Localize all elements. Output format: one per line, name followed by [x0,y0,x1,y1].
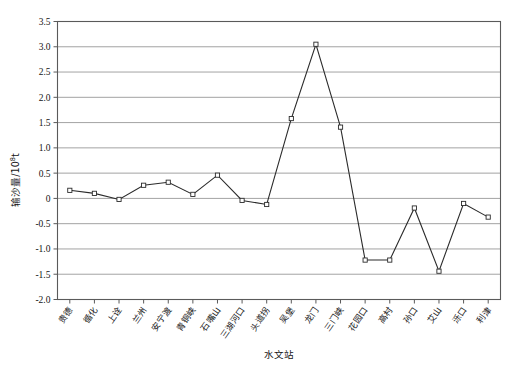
y-axis-tick-label: -1.5 [35,270,50,280]
x-axis-tick-label: 青铜峡 [174,304,198,332]
x-axis-tick-label: 花园口 [346,304,370,332]
x-axis-tick-label: 高村 [376,304,395,325]
data-point-marker [363,258,367,262]
y-axis-tick-label: 3.5 [39,17,51,27]
y-axis-tick-label: 1.0 [39,143,51,153]
data-point-marker [437,269,441,273]
x-axis-tick-label: 龙门 [302,304,321,325]
y-axis-tick-label: 1.5 [39,118,51,128]
data-point-marker [92,191,96,195]
x-axis-tick-label: 贵德 [56,304,75,325]
data-point-marker [265,202,269,206]
data-point-marker [338,125,342,129]
data-point-marker [486,215,490,219]
y-axis-tick-label: 2.0 [39,93,51,103]
x-axis-tick-label: 三湖河口 [218,304,248,340]
y-axis-tick-label: -1.0 [35,244,50,254]
y-axis-ticks [54,22,58,300]
data-point-marker [166,180,170,184]
x-axis-tick-label: 孙口 [400,304,419,325]
data-point-marker [215,173,219,177]
y-axis-tick-label: 2.5 [39,67,51,77]
x-axis-tick-label: 循化 [80,304,99,325]
x-axis-ticks [70,300,488,304]
x-axis-tick-labels: 贵德循化上诠兰州安宁渡青铜峡石嘴山三湖河口头道拐吴堡龙门三门峡花园口高村孙口艾山… [56,304,494,340]
y-axis-tick-label: 3.0 [39,42,51,52]
data-point-marker [142,183,146,187]
y-axis-title-text: 输沙量/108t [9,153,21,207]
data-point-marker [314,42,318,46]
data-point-marker [117,197,121,201]
plot-gridlines [58,22,501,275]
data-series-line [70,44,488,271]
y-axis-title: 输沙量/108t [9,153,21,207]
data-point-markers [68,42,491,273]
x-axis-tick-label: 艾山 [426,305,445,325]
chart-figure: 3.53.02.52.01.51.00.50-0.5-1.0-1.5-2.0 贵… [0,0,531,374]
data-point-marker [289,116,293,120]
x-axis-tick-label: 头道拐 [247,304,271,332]
sediment-transport-line-chart: 3.53.02.52.01.51.00.50-0.5-1.0-1.5-2.0 贵… [0,0,531,374]
x-axis-tick-label: 上诠 [105,304,124,325]
x-axis-tick-label: 吴堡 [278,305,297,325]
data-point-marker [240,198,244,202]
data-point-marker [191,192,195,196]
x-axis-tick-label: 安宁渡 [149,304,173,332]
data-point-marker [412,206,416,210]
y-axis-tick-label: 0.5 [39,169,51,179]
data-point-marker [461,201,465,205]
y-axis-tick-label: -2.0 [35,295,50,305]
y-axis-tick-labels: 3.53.02.52.01.51.00.50-0.5-1.0-1.5-2.0 [35,17,50,305]
x-axis-tick-label: 泺口 [449,304,468,325]
x-axis-tick-label: 石嘴山 [199,305,223,333]
data-point-marker [68,188,72,192]
x-axis-tick-label: 利津 [474,304,493,325]
x-axis-tick-label: 三门峡 [321,304,345,332]
y-axis-tick-label: -0.5 [35,219,50,229]
x-axis-title: 水文站 [264,349,294,360]
y-axis-tick-label: 0 [46,194,51,204]
data-point-marker [388,258,392,262]
x-axis-tick-label: 兰州 [129,304,148,325]
